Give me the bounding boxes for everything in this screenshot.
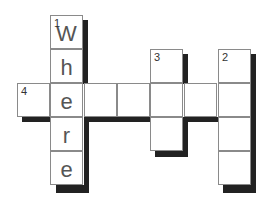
cell-letter: e bbox=[51, 89, 82, 115]
crossword-cell[interactable]: e bbox=[50, 83, 83, 117]
clue-number: 4 bbox=[21, 85, 27, 97]
shadow bbox=[83, 20, 88, 84]
crossword-cell[interactable] bbox=[117, 83, 150, 117]
shadow bbox=[183, 54, 188, 84]
crossword-cell[interactable] bbox=[84, 83, 117, 117]
clue-number: 2 bbox=[222, 51, 228, 63]
crossword-cell[interactable]: h bbox=[50, 49, 83, 83]
shadow bbox=[22, 117, 51, 122]
crossword-cell[interactable]: e bbox=[50, 151, 83, 185]
crossword-board: W1h4ere32 bbox=[0, 0, 272, 203]
crossword-cell[interactable] bbox=[150, 83, 183, 117]
crossword-cell[interactable] bbox=[218, 151, 251, 185]
clue-number: 1 bbox=[54, 17, 60, 29]
cell-letter: r bbox=[51, 123, 82, 149]
crossword-cell[interactable]: 3 bbox=[150, 49, 183, 83]
cell-letter: e bbox=[51, 157, 82, 183]
crossword-cell[interactable] bbox=[218, 83, 251, 117]
clue-number: 3 bbox=[154, 51, 160, 63]
crossword-cell[interactable] bbox=[184, 83, 217, 117]
shadow bbox=[184, 117, 219, 122]
crossword-cell[interactable]: W1 bbox=[50, 15, 83, 49]
shadow bbox=[84, 117, 89, 193]
crossword-cell[interactable]: 2 bbox=[218, 49, 251, 83]
shadow bbox=[251, 54, 256, 193]
crossword-cell[interactable]: r bbox=[50, 117, 83, 151]
crossword-cell[interactable] bbox=[218, 117, 251, 151]
crossword-cell[interactable]: 4 bbox=[17, 83, 50, 117]
shadow bbox=[155, 151, 188, 157]
shadow bbox=[56, 185, 89, 193]
shadow bbox=[223, 185, 256, 193]
crossword-cell[interactable] bbox=[150, 117, 183, 151]
shadow bbox=[84, 117, 151, 122]
cell-letter: h bbox=[51, 55, 82, 81]
